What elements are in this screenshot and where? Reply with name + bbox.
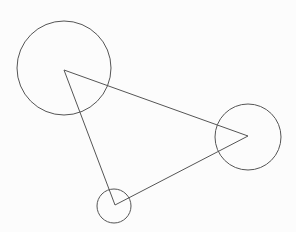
background [0, 0, 296, 232]
diagram-canvas [0, 0, 296, 232]
